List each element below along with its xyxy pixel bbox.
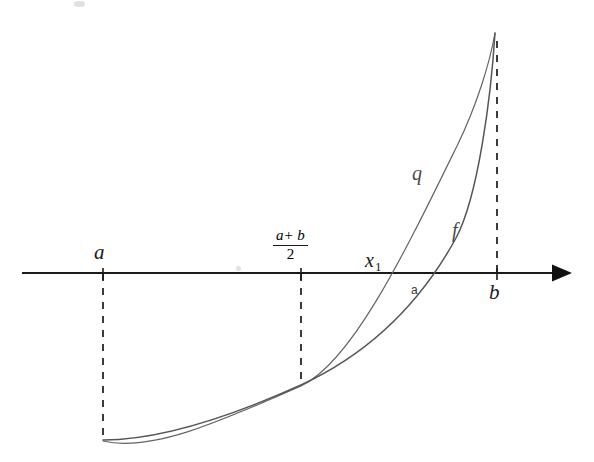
label-midpoint-numerator: a+ b	[273, 228, 308, 246]
scan-artifact-axis	[236, 266, 241, 271]
label-root-small-a: a	[411, 284, 418, 296]
label-point-b: b	[489, 282, 500, 303]
label-midpoint-denominator: 2	[273, 246, 308, 263]
label-root-x1-base: x	[365, 250, 374, 270]
label-curve-q: q	[412, 163, 422, 183]
x-axis-arrowhead	[552, 265, 572, 282]
label-curve-f: f	[452, 220, 458, 240]
scan-artifact-top	[74, 1, 85, 7]
label-root-x1-subscript: 1	[375, 260, 382, 273]
label-root-x1: x 1	[365, 250, 380, 270]
label-midpoint-fraction: a+ b 2	[273, 228, 308, 263]
label-point-a: a	[94, 242, 105, 263]
